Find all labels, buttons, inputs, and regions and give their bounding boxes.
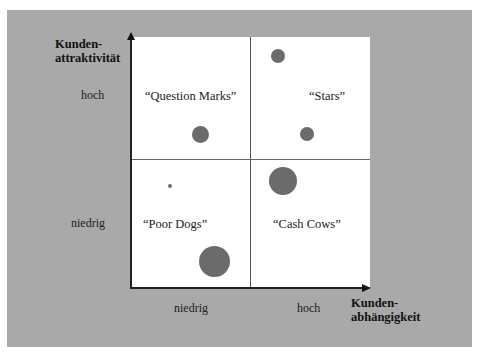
vertical-divider xyxy=(250,37,251,287)
y-axis-arrow-icon xyxy=(127,32,135,40)
bubble-stars-1 xyxy=(271,49,285,63)
y-tick-high: hoch xyxy=(81,88,104,103)
bubble-question-marks xyxy=(192,126,209,143)
x-axis-arrow-icon xyxy=(362,284,371,292)
quadrant-label-cash-cows: “Cash Cows” xyxy=(273,217,341,232)
x-tick-high: hoch xyxy=(297,301,320,316)
x-axis-line xyxy=(130,287,366,289)
x-axis-title-line2: abhängigkeit xyxy=(351,310,420,324)
x-axis-title-line1: Kunden- xyxy=(351,296,420,310)
bubble-poor-dogs-small xyxy=(168,184,172,188)
bubble-cash-cows xyxy=(269,167,297,195)
y-axis-title-line2: attraktivität xyxy=(55,51,120,65)
x-tick-low: niedrig xyxy=(174,301,208,316)
horizontal-divider xyxy=(131,159,370,160)
bubble-poor-dogs-large xyxy=(199,246,230,277)
y-axis-title-line1: Kunden- xyxy=(55,37,120,51)
y-axis-line xyxy=(130,38,132,288)
quadrant-label-question-marks: “Question Marks” xyxy=(145,89,236,104)
figure-caption-clipped xyxy=(10,349,310,354)
y-axis-title: Kunden- attraktivität xyxy=(55,37,120,65)
y-tick-low: niedrig xyxy=(71,216,105,231)
quadrant-label-poor-dogs: “Poor Dogs” xyxy=(143,217,207,232)
bubble-stars-2 xyxy=(300,127,314,141)
x-axis-title: Kunden- abhängigkeit xyxy=(351,296,420,324)
quadrant-label-stars: “Stars” xyxy=(309,89,345,104)
